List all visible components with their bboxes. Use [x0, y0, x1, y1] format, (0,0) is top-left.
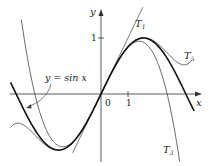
sin-label: y = sin x — [44, 72, 87, 83]
t5-label: T5 — [184, 50, 195, 62]
t3-label: T3 — [163, 144, 174, 156]
x-axis-arrow-icon — [195, 92, 202, 97]
y-axis-label: y — [89, 6, 96, 17]
t1-label: T1 — [135, 18, 146, 30]
x-tick-1-label: 1 — [126, 98, 132, 108]
t3-curve — [21, 20, 179, 162]
taylor-diagram: y x 0 1 1 y = sin x T1 T3 T5 — [0, 0, 212, 166]
y-tick-1-label: 1 — [91, 33, 97, 43]
sin-label-pointer — [28, 84, 51, 107]
pointer-arrow-icon — [26, 104, 32, 109]
origin-label: 0 — [105, 98, 111, 108]
sin-label-text: y = sin x — [44, 72, 87, 83]
x-axis-label: x — [196, 97, 202, 108]
y-axis-arrow-icon — [99, 9, 104, 16]
